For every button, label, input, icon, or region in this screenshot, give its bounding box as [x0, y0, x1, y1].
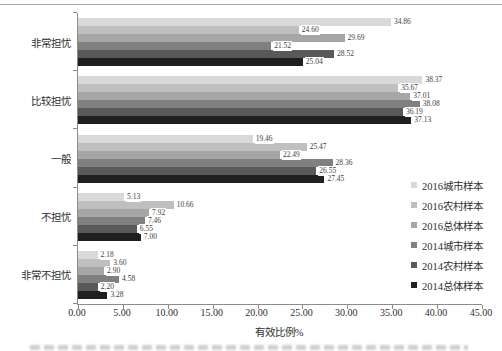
y-tick-mark [73, 187, 77, 188]
bar [78, 217, 145, 225]
y-axis-labels: 非常担忧比较担忧一般不担忧非常不担忧 [0, 13, 71, 304]
bar [78, 251, 98, 259]
bar [78, 233, 141, 241]
bar-value-label: 22.49 [282, 150, 301, 160]
bar-value-label: 25.04 [305, 57, 324, 67]
bar-row: 24.60 [78, 26, 482, 34]
category-band: 38.3735.6737.0138.0836.1937.13 [78, 71, 482, 129]
x-tick-label: 5.00 [113, 307, 131, 318]
y-tick-mark [73, 12, 77, 13]
bar-value-label: 19.46 [255, 134, 274, 144]
bar-row: 37.13 [78, 116, 482, 124]
bar-value-label: 10.66 [176, 200, 195, 210]
y-axis-label: 非常担忧 [0, 13, 71, 71]
bar [78, 26, 299, 34]
legend-item: 2014农村样本 [411, 255, 483, 275]
legend-swatch [411, 242, 417, 248]
bar [78, 167, 316, 175]
x-tick-label: 10.00 [156, 307, 179, 318]
x-tick-label: 35.00 [380, 307, 403, 318]
bar-value-label: 28.52 [336, 49, 355, 59]
bar-value-label: 37.13 [413, 115, 432, 125]
bar-row: 26.55 [78, 167, 482, 175]
legend-swatch [411, 222, 417, 228]
legend-swatch [411, 182, 417, 188]
bar-row: 21.52 [78, 42, 482, 50]
bar [78, 34, 345, 42]
bar [78, 108, 403, 116]
bar [78, 159, 333, 167]
bar [78, 116, 411, 124]
worry-bar-chart-figure: 非常担忧比较担忧一般不担忧非常不担忧 34.8624.6029.6921.522… [0, 0, 502, 351]
y-tick-mark [73, 303, 77, 304]
bar [78, 209, 149, 217]
bar [78, 175, 324, 183]
bar-value-label: 28.36 [335, 158, 354, 168]
bar-value-label: 2.90 [106, 266, 121, 276]
bar-value-label: 24.60 [301, 25, 320, 35]
legend-item: 2016城市样本 [411, 175, 483, 195]
bar-value-label: 5.13 [126, 192, 141, 202]
bar [78, 143, 307, 151]
bar [78, 225, 137, 233]
bar [78, 151, 280, 159]
bar-row: 34.86 [78, 18, 482, 26]
bar [78, 50, 334, 58]
bar-row: 38.37 [78, 76, 482, 84]
legend-label: 2016城市样本 [422, 178, 483, 193]
bar-row: 25.47 [78, 143, 482, 151]
legend: 2016城市样本2016农村样本2016总体样本2014城市样本2014农村样本… [411, 175, 483, 295]
bar-value-label: 27.45 [326, 174, 345, 184]
y-axis-label: 一般 [0, 129, 71, 187]
cropped-caption-blur [30, 345, 468, 350]
bar [78, 58, 303, 66]
x-axis-title: 有效比例% [77, 324, 481, 339]
bar-value-label: 25.47 [309, 142, 328, 152]
legend-label: 2014总体样本 [422, 278, 483, 293]
bar [78, 76, 422, 84]
legend-label: 2016农村样本 [422, 198, 483, 213]
bar [78, 100, 420, 108]
bar-value-label: 29.69 [347, 33, 366, 43]
legend-item: 2016农村样本 [411, 195, 483, 215]
x-tick-label: 45.00 [470, 307, 493, 318]
x-tick-label: 30.00 [335, 307, 358, 318]
y-axis-label: 比较担忧 [0, 71, 71, 129]
y-tick-mark [73, 70, 77, 71]
bar-row: 28.52 [78, 50, 482, 58]
bar-row: 28.36 [78, 159, 482, 167]
bar-row: 22.49 [78, 151, 482, 159]
x-tick-label: 15.00 [200, 307, 223, 318]
bar [78, 84, 398, 92]
top-rule-divider [0, 4, 502, 5]
bar-row: 19.46 [78, 135, 482, 143]
legend-item: 2016总体样本 [411, 215, 483, 235]
x-tick-label: 20.00 [245, 307, 268, 318]
legend-item: 2014城市样本 [411, 235, 483, 255]
bar-value-label: 7.00 [143, 232, 158, 242]
bar [78, 267, 104, 275]
bar-value-label: 38.37 [424, 75, 443, 85]
bar [78, 42, 271, 50]
legend-swatch [411, 262, 417, 268]
bar [78, 283, 98, 291]
y-tick-mark [73, 245, 77, 246]
bar [78, 193, 124, 201]
bar-value-label: 3.28 [109, 290, 124, 300]
bar [78, 92, 410, 100]
bar [78, 135, 253, 143]
x-tick-label: 40.00 [425, 307, 448, 318]
legend-swatch [411, 282, 417, 288]
y-axis-label: 不担忧 [0, 188, 71, 246]
bar-row: 25.04 [78, 58, 482, 66]
y-tick-mark [73, 128, 77, 129]
x-tick-label: 0.00 [68, 307, 86, 318]
legend-item: 2014总体样本 [411, 275, 483, 295]
bar-value-label: 21.52 [273, 41, 292, 51]
bar [78, 18, 391, 26]
bar-value-label: 34.86 [393, 17, 412, 27]
y-axis-label: 非常不担忧 [0, 246, 71, 304]
category-band: 34.8624.6029.6921.5228.5225.04 [78, 13, 482, 71]
x-tick-label: 25.00 [290, 307, 313, 318]
legend-label: 2016总体样本 [422, 218, 483, 233]
